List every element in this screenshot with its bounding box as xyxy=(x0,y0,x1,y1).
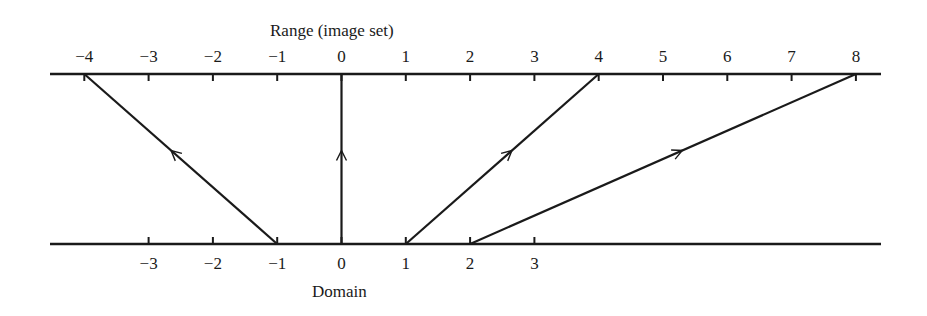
domain-tick-label: −3 xyxy=(140,254,158,273)
domain-tick-label: −1 xyxy=(268,254,286,273)
range-tick-label: 0 xyxy=(337,47,346,66)
mapping-line xyxy=(84,74,277,244)
range-tick-label: 1 xyxy=(402,47,411,66)
range-tick-label: 3 xyxy=(530,47,539,66)
domain-tick-label: 1 xyxy=(402,254,411,273)
range-axis-labels: −4−3−2−1012345678 xyxy=(75,47,860,66)
domain-tick-label: 0 xyxy=(337,254,346,273)
mapping-arrow xyxy=(406,74,599,244)
domain-tick-label: 2 xyxy=(466,254,475,273)
range-tick-label: −1 xyxy=(268,47,286,66)
range-axis-title: Range (image set) xyxy=(270,21,394,40)
function-mapping-diagram: Range (image set) −4−3−2−1012345678 −3−2… xyxy=(0,0,927,316)
mapping-arrow xyxy=(470,74,856,244)
range-tick-label: 2 xyxy=(466,47,475,66)
range-tick-label: 6 xyxy=(723,47,732,66)
range-tick-label: −3 xyxy=(140,47,158,66)
range-tick-label: 8 xyxy=(852,47,861,66)
mapping-line xyxy=(470,74,856,244)
range-tick-label: 5 xyxy=(659,47,668,66)
domain-tick-label: 3 xyxy=(530,254,539,273)
mapping-arrow xyxy=(337,74,347,244)
domain-tick-label: −2 xyxy=(204,254,222,273)
range-tick-label: −4 xyxy=(75,47,94,66)
range-tick-label: 4 xyxy=(594,47,603,66)
domain-axis-title: Domain xyxy=(312,282,367,301)
domain-axis-labels: −3−2−10123 xyxy=(140,254,539,273)
mapping-line xyxy=(406,74,599,244)
mapping-arrow xyxy=(84,74,277,244)
mapping-arrows xyxy=(84,74,856,244)
range-tick-label: 7 xyxy=(787,47,796,66)
range-tick-label: −2 xyxy=(204,47,222,66)
